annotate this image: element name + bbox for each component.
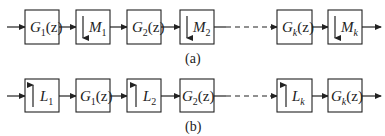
- block-g2-a: G2(z): [127, 10, 165, 44]
- block-m1-a: M1: [76, 10, 110, 44]
- caption-b: (b): [185, 119, 202, 135]
- block-g1-a: G1(z): [25, 10, 63, 44]
- row-b: L1 G1(z) L2 G2(z) Lk Gk(z): [7, 79, 381, 135]
- block-g1-b: G1(z): [76, 79, 113, 112]
- block-l2-b: L2: [127, 79, 161, 112]
- block-g2-b: G2(z): [180, 79, 215, 112]
- block-m2-a: M2: [180, 10, 214, 44]
- block-diagram: G1(z) M1 G2(z) M2 Gk(z): [0, 0, 385, 136]
- caption-a: (a): [185, 51, 201, 67]
- block-gk-a: Gk(z): [277, 10, 314, 44]
- block-mk-a: Mk: [328, 10, 362, 44]
- block-lk-b: Lk: [277, 79, 312, 112]
- block-l1-b: L1: [25, 79, 59, 112]
- row-a: G1(z) M1 G2(z) M2 Gk(z): [7, 10, 381, 67]
- block-gk-b: Gk(z): [328, 79, 363, 112]
